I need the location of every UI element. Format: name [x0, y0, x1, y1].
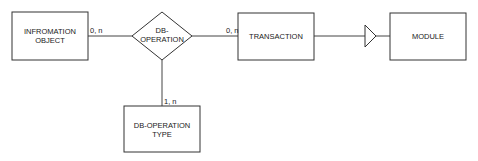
inheritance-triangle-icon	[365, 25, 376, 47]
cardinality-db-operation-type: 1, n	[164, 97, 177, 106]
entity-information-object[interactable]: INFROMATION OBJECT	[12, 12, 88, 60]
relationship-db-operation[interactable]: DB- OPERATION	[132, 12, 192, 60]
relationship-label-line2: OPERATION	[140, 35, 184, 44]
cardinality-transaction: 0, n	[226, 26, 239, 35]
entity-transaction[interactable]: TRANSACTION	[238, 13, 314, 60]
cardinality-info-object: 0, n	[90, 26, 103, 35]
entity-label-line1: INFROMATION	[24, 27, 76, 36]
er-diagram: INFROMATION OBJECT DB- OPERATION TRANSAC…	[0, 0, 478, 161]
entity-label: TRANSACTION	[249, 32, 303, 41]
entity-label-line2: TYPE	[152, 130, 172, 139]
entity-label-line2: OBJECT	[35, 36, 65, 45]
entity-label: MODULE	[412, 32, 444, 41]
entity-db-operation-type[interactable]: DB-OPERATION TYPE	[124, 106, 200, 152]
entity-module[interactable]: MODULE	[390, 13, 466, 60]
relationship-label-line1: DB-	[156, 26, 169, 35]
entity-label-line1: DB-OPERATION	[134, 121, 191, 130]
